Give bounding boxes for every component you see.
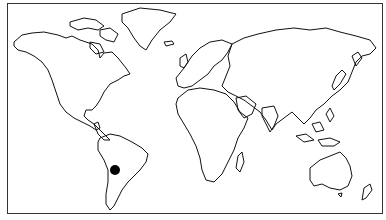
africa (176, 88, 248, 182)
south-america (98, 134, 148, 210)
location-marker (110, 165, 120, 175)
asia (222, 28, 376, 130)
australia (310, 152, 352, 190)
world-map (0, 0, 386, 220)
north-america (14, 32, 130, 130)
greenland (122, 8, 176, 50)
